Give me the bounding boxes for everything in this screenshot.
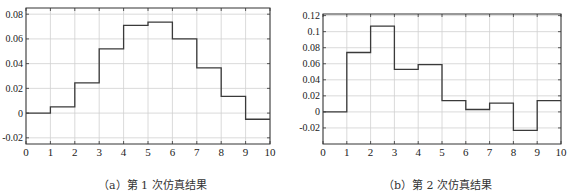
svg-text:7: 7 [194,146,200,158]
svg-text:7: 7 [487,146,493,158]
svg-text:6: 6 [463,146,469,158]
svg-text:2: 2 [368,146,374,158]
svg-text:4: 4 [415,146,421,158]
svg-text:8: 8 [511,146,517,158]
grid [26,8,270,144]
y-axis-ticks: -0.0200.020.040.060.08 [2,9,270,144]
svg-text:1: 1 [344,146,350,158]
svg-text:0.06: 0.06 [303,58,321,69]
svg-text:3: 3 [96,146,102,158]
chart-b-step-plot: 012345678910-0.0200.020.040.060.080.10.1… [285,0,570,170]
svg-text:9: 9 [534,146,540,158]
svg-text:1: 1 [48,146,54,158]
svg-text:2: 2 [72,146,78,158]
svg-text:0.08: 0.08 [6,9,24,20]
y-axis-ticks: -0.0200.020.040.060.080.10.12 [299,10,561,133]
x-axis-ticks: 012345678910 [23,8,276,158]
svg-text:0: 0 [18,108,23,119]
svg-text:-0.02: -0.02 [2,132,23,143]
svg-text:5: 5 [439,146,445,158]
svg-text:3: 3 [392,146,398,158]
svg-text:6: 6 [170,146,176,158]
caption-b: （b）第 2 次仿真结果 [383,176,492,192]
svg-text:10: 10 [265,146,277,158]
chart-a-step-plot: 012345678910-0.0200.020.040.060.08 [0,0,285,170]
svg-text:-0.02: -0.02 [299,122,320,133]
caption-a: （a）第 1 次仿真结果 [98,176,207,192]
svg-text:0.02: 0.02 [303,90,321,101]
svg-text:0: 0 [320,146,326,158]
svg-text:9: 9 [243,146,249,158]
svg-text:0.04: 0.04 [6,58,24,69]
svg-text:8: 8 [218,146,224,158]
svg-text:0.1: 0.1 [308,26,321,37]
svg-text:10: 10 [556,146,568,158]
svg-text:0.12: 0.12 [303,10,321,21]
svg-text:0: 0 [23,146,29,158]
svg-text:0.08: 0.08 [303,42,321,53]
svg-text:0.02: 0.02 [6,83,24,94]
svg-text:4: 4 [121,146,127,158]
svg-text:0: 0 [315,106,320,117]
svg-text:0.06: 0.06 [6,33,24,44]
svg-text:5: 5 [145,146,151,158]
svg-text:0.04: 0.04 [303,74,321,85]
x-axis-ticks: 012345678910 [320,14,567,158]
